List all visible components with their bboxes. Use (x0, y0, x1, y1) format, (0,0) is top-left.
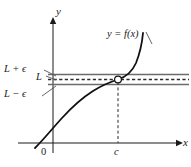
upper-band-label: L + ϵ (4, 64, 26, 75)
open-point-icon (115, 76, 122, 83)
figure-canvas (0, 0, 191, 167)
curve-label-leader-line (146, 32, 152, 44)
function-curve (35, 33, 143, 148)
limit-label: L (36, 72, 42, 83)
curve-label: y = f(x) (107, 29, 139, 40)
lower-band-leader-line (42, 86, 56, 96)
y-axis-label: y (56, 6, 61, 17)
limit-epsilon-figure: y x 0 c L + ϵ L L − ϵ y = f(x) (0, 0, 191, 167)
origin-label: 0 (41, 147, 46, 158)
x-tick-label-c: c (114, 147, 119, 158)
x-axis-label: x (183, 137, 188, 148)
lower-band-label: L − ϵ (4, 89, 26, 100)
